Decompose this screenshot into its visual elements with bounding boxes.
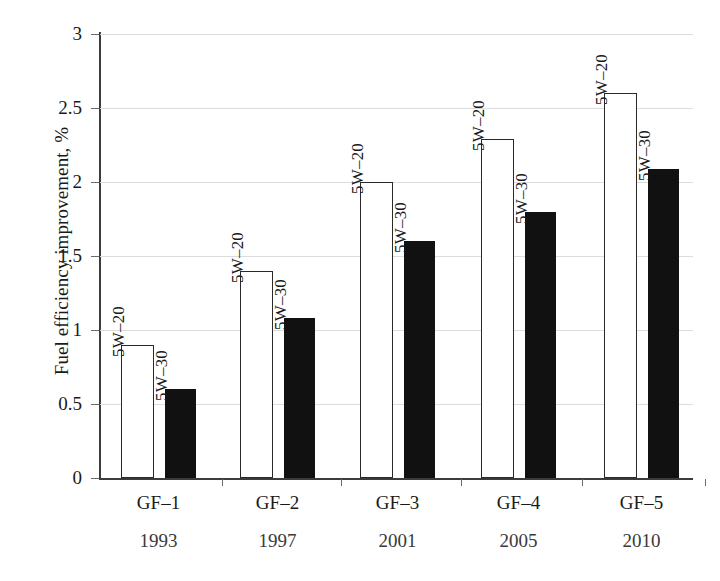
bar-gf-4-5w20[interactable] [481,139,514,478]
x-axis-year-label: 2001 [338,530,458,552]
bar-gf-5-5w20[interactable] [604,93,637,478]
y-axis-tick [91,108,99,109]
bar-value-label: 5W–30 [271,279,291,330]
y-axis-tick [91,182,99,183]
bar-value-label: 5W–20 [109,306,129,357]
x-axis-line [99,478,693,480]
x-axis-year-label: 2010 [582,530,702,552]
bar-gf-1-5w30[interactable] [165,389,196,478]
bar-chart-figure: Fuel efficiency improvement, % 32.521.51… [0,0,720,581]
x-axis-category-label: GF–4 [459,492,579,514]
x-axis-tick [582,479,583,486]
y-axis-tick-label: 3 [26,24,82,43]
bar-gf-3-5w30[interactable] [404,241,435,478]
bar-gf-4-5w30[interactable] [525,212,556,478]
x-axis-year-label: 1993 [99,530,219,552]
bar-value-label: 5W–20 [469,100,489,151]
y-axis-tick [91,404,99,405]
y-axis-tick-label: 0.5 [26,394,82,413]
x-axis-category-label: GF–2 [218,492,338,514]
y-axis-tick-label: 2 [26,172,82,191]
y-axis-tick [91,34,99,35]
bar-gf-2-5w30[interactable] [284,318,315,478]
bar-gf-2-5w20[interactable] [240,271,273,478]
bar-value-label: 5W–30 [152,350,172,401]
bar-value-label: 5W–20 [348,143,368,194]
y-axis-tick-label: 2.5 [26,98,82,117]
y-axis-tick-label: 1.5 [26,246,82,265]
bar-value-label: 5W–30 [635,130,655,181]
plot-area: 5W–205W–305W–205W–305W–205W–305W–205W–30… [100,34,693,478]
x-axis-tick [461,479,462,486]
x-axis-tick [705,479,706,486]
y-axis-tick [91,478,99,479]
x-axis-year-label: 1997 [218,530,338,552]
y-axis-tick [91,256,99,257]
bar-gf-5-5w30[interactable] [648,169,679,478]
x-axis-year-label: 2005 [459,530,579,552]
bar-value-label: 5W–20 [228,232,248,283]
y-axis-tick-label: 0 [26,468,82,487]
bar-gf-3-5w20[interactable] [360,182,393,478]
x-axis-category-label: GF–1 [99,492,219,514]
y-axis-tick [91,330,99,331]
x-axis-tick [222,479,223,486]
bar-value-label: 5W–20 [592,54,612,105]
bar-value-label: 5W–30 [512,173,532,224]
x-axis-category-label: GF–5 [582,492,702,514]
x-axis-category-label: GF–3 [338,492,458,514]
gridline [100,34,693,35]
bar-value-label: 5W–30 [391,202,411,253]
y-axis-tick-label: 1 [26,320,82,339]
x-axis-tick [341,479,342,486]
bar-gf-1-5w20[interactable] [121,345,154,478]
